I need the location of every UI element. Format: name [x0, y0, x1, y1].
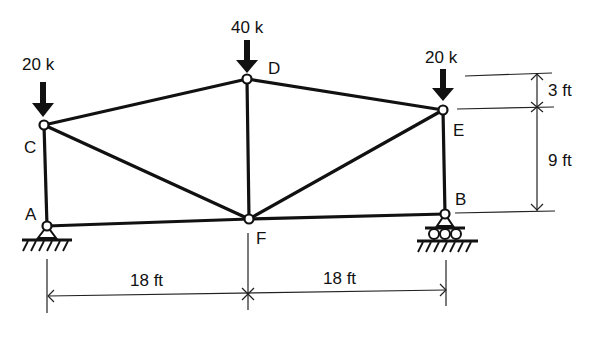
load-arrow-D	[236, 40, 258, 73]
roller-support-B	[417, 214, 478, 252]
dim-label-3ft: 3 ft	[548, 81, 572, 100]
member-AF	[47, 219, 249, 226]
load-label-D: 40 k	[231, 18, 264, 37]
joint-E	[439, 106, 448, 115]
joint-label-A: A	[25, 205, 37, 224]
truss-diagram: A B C D E F 20 k 40 k 20 k 3 ft 9 ft	[0, 0, 598, 338]
joint-label-F: F	[256, 229, 266, 248]
member-DF	[247, 79, 249, 219]
joint-D	[243, 75, 252, 84]
joint-label-D: D	[268, 59, 280, 78]
member-EF	[249, 110, 443, 219]
vertical-dimensions	[455, 73, 555, 213]
load-arrow-C	[32, 82, 54, 117]
joint-label-E: E	[453, 121, 464, 140]
joint-C	[40, 121, 49, 130]
member-CF	[44, 125, 249, 219]
joint-B	[441, 210, 450, 219]
joint-label-B: B	[455, 190, 466, 209]
dim-label-9ft: 9 ft	[548, 151, 572, 170]
horizontal-dimensions	[47, 233, 446, 313]
truss-members	[44, 79, 445, 226]
member-CD	[44, 79, 247, 125]
member-AC	[44, 125, 47, 226]
load-label-E: 20 k	[425, 48, 458, 67]
load-arrow-E	[432, 69, 454, 101]
dim-label-18ft-right: 18 ft	[323, 269, 356, 288]
load-label-C: 20 k	[22, 55, 55, 74]
joint-F	[245, 215, 254, 224]
truss-svg: A B C D E F 20 k 40 k 20 k 3 ft 9 ft	[0, 0, 598, 338]
joint-A	[43, 222, 52, 231]
member-FB	[249, 214, 445, 219]
member-DE	[247, 79, 443, 110]
dim-label-18ft-left: 18 ft	[130, 271, 163, 290]
member-BE	[443, 110, 445, 214]
joint-label-C: C	[24, 138, 36, 157]
